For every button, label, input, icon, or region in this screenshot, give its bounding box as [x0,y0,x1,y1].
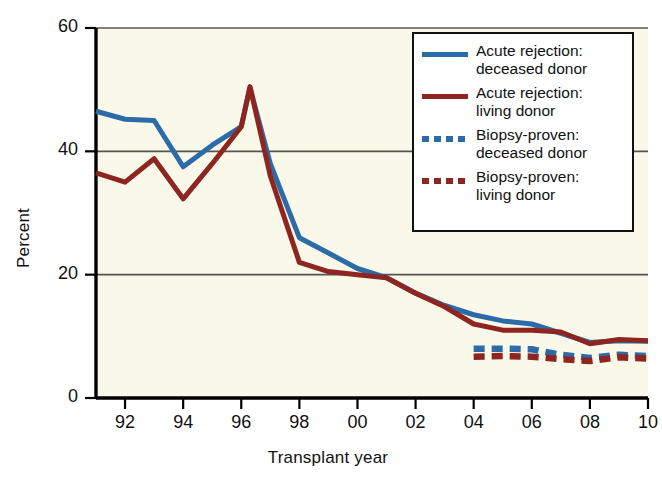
legend-label-line1: Biopsy-proven: [476,168,579,185]
x-axis-tick-label: 96 [221,412,261,433]
x-axis-title: Transplant year [0,448,656,468]
legend-item: Biopsy-proven: living donor [422,168,626,204]
y-axis-tick-label: 40 [30,139,78,160]
legend-swatch-acute-deceased-icon [422,46,468,64]
legend-label-line2: living donor [476,186,555,203]
legend-item-label: Acute rejection: deceased donor [476,42,587,78]
legend-item: Biopsy-proven: deceased donor [422,126,626,162]
legend-label-line1: Biopsy-proven: [476,126,579,143]
legend-label-line2: living donor [476,102,555,119]
legend-swatch-biopsy-living-icon [422,172,468,190]
legend-item-label: Biopsy-proven: deceased donor [476,126,587,162]
y-axis-tick-label: 20 [30,263,78,284]
x-axis-tick-label: 10 [628,412,662,433]
legend-item: Acute rejection: deceased donor [422,42,626,78]
y-axis-tick-label: 0 [30,386,78,407]
legend-label-line1: Acute rejection: [476,84,583,101]
legend-label-line2: deceased donor [476,60,587,77]
legend-item-label: Acute rejection: living donor [476,84,583,120]
x-axis-tick-label: 02 [396,412,436,433]
legend-swatch-biopsy-deceased-icon [422,130,468,148]
x-axis-tick-label: 92 [105,412,145,433]
chart-legend: Acute rejection: deceased donor Acute re… [412,32,634,232]
y-axis-tick-label: 60 [30,16,78,37]
x-axis-tick-label: 08 [570,412,610,433]
legend-item: Acute rejection: living donor [422,84,626,120]
y-axis-title: Percent [14,208,34,268]
x-axis-tick-label: 04 [454,412,494,433]
legend-label-line2: deceased donor [476,144,587,161]
legend-label-line1: Acute rejection: [476,42,583,59]
legend-item-label: Biopsy-proven: living donor [476,168,579,204]
x-axis-tick-label: 00 [337,412,377,433]
x-axis-tick-label: 94 [163,412,203,433]
x-axis-tick-label: 98 [279,412,319,433]
x-axis-tick-label: 06 [512,412,552,433]
legend-swatch-acute-living-icon [422,88,468,106]
